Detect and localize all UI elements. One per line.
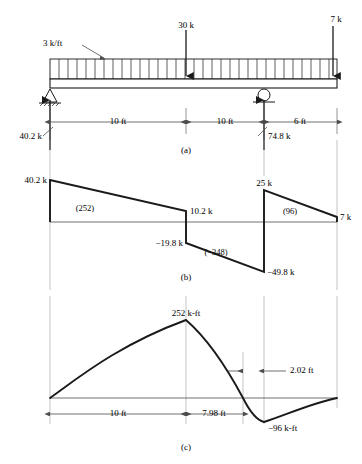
label-area-positive-2: (96) xyxy=(283,206,297,216)
dim-label-a-2: 10 ft xyxy=(217,116,234,126)
label-shear-right-end: 7 k xyxy=(340,212,351,222)
shear-diagram-group xyxy=(50,180,337,272)
label-shear-after-support: 25 k xyxy=(256,178,272,188)
dim-label-c-2: 7.98 ft xyxy=(202,408,226,418)
label-shear-before-support: −49.8 k xyxy=(267,267,295,277)
label-shear-start: 40.2 k xyxy=(25,175,48,185)
label-point-load-30k: 30 k xyxy=(178,20,194,30)
label-shear-before-load: 10.2 k xyxy=(190,206,213,216)
label-area-positive-1: (252) xyxy=(76,203,94,213)
label-area-negative: (−348) xyxy=(204,247,227,257)
figure-graphics xyxy=(0,0,362,464)
shear-trace xyxy=(50,180,337,272)
label-moment-max: 252 k-ft xyxy=(172,308,201,318)
label-reaction-left: 40.2 k xyxy=(20,131,43,141)
label-point-load-7k: 7 k xyxy=(330,14,341,24)
dim-label-c-3: 2.02 ft xyxy=(290,365,314,375)
distributed-load-block xyxy=(50,59,337,79)
label-distributed-load: 3 k/ft xyxy=(43,38,62,48)
dim-label-a-1: 10 ft xyxy=(110,116,127,126)
label-reaction-right: 74.8 k xyxy=(268,131,291,141)
beam-member xyxy=(50,79,337,88)
caption-a: (a) xyxy=(181,145,191,155)
dim-label-a-3: 6 ft xyxy=(294,116,306,126)
label-shear-after-load: −19.8 k xyxy=(155,238,183,248)
loading-diagram-group xyxy=(39,26,337,150)
reference-lines xyxy=(50,140,337,424)
dim-label-c-1: 10 ft xyxy=(110,408,127,418)
caption-c: (c) xyxy=(181,442,191,452)
label-moment-min: −96 k-ft xyxy=(268,423,297,433)
distributed-load-leader xyxy=(82,45,104,58)
caption-b: (b) xyxy=(181,272,192,282)
beam-analysis-figure: 30 k 7 k 3 k/ft 40.2 k 74.8 k 10 ft 10 f… xyxy=(0,0,362,464)
